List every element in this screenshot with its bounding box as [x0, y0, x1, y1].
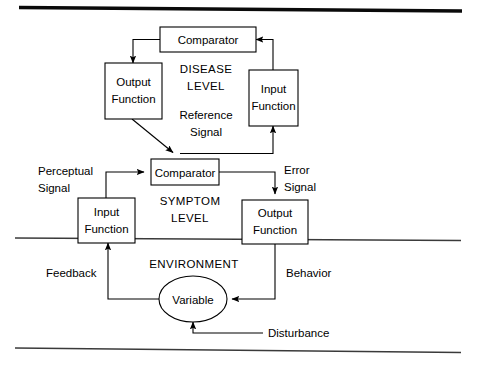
symptom-output-function-label-line1: Output: [258, 207, 293, 219]
reference-signal-line1: Reference: [179, 109, 232, 121]
top-horizontal-rule: [19, 8, 462, 12]
caption-perceptual-signal: Perceptual Signal: [38, 165, 93, 194]
edge-disease-input-function-to-comparator: [256, 40, 273, 71]
symptom-level-line2: LEVEL: [171, 212, 209, 224]
disease-level-line1: DISEASE: [180, 63, 233, 75]
caption-reference-signal: Reference Signal: [179, 109, 232, 138]
caption-disease-level: DISEASE LEVEL: [180, 63, 233, 92]
error-signal-line2: Signal: [284, 181, 316, 193]
environment-level-label: ENVIRONMENT: [149, 258, 238, 270]
perceptual-signal-line2: Signal: [38, 182, 70, 194]
edge-error-signal-to-symptom-output-function: [219, 172, 275, 194]
disturbance-label: Disturbance: [268, 327, 329, 339]
symptom-level-line1: SYMPTOM: [160, 195, 221, 207]
caption-error-signal: Error Signal: [284, 164, 316, 193]
node-symptom-input-function[interactable]: Input Function: [78, 198, 135, 243]
bottom-horizontal-rule: [15, 348, 461, 353]
disease-level-line2: LEVEL: [187, 80, 225, 92]
edge-disturbance-to-variable: [193, 322, 263, 333]
disease-output-function-label-line2: Function: [111, 93, 155, 105]
disease-output-function-label-line1: Output: [116, 76, 151, 88]
node-symptom-comparator[interactable]: Comparator: [151, 159, 219, 185]
symptom-input-function-label-line1: Input: [94, 206, 120, 218]
disease-comparator-label: Comparator: [178, 34, 239, 46]
symptom-output-function-label-line2: Function: [253, 224, 297, 236]
node-environment-variable[interactable]: Variable: [159, 276, 227, 322]
edge-reference-signal-to-symptom-comparator: [132, 119, 173, 153]
caption-symptom-level: SYMPTOM LEVEL: [160, 195, 221, 224]
behavior-label: Behavior: [286, 267, 332, 279]
node-disease-output-function[interactable]: Output Function: [105, 63, 162, 119]
node-symptom-output-function[interactable]: Output Function: [242, 200, 308, 244]
edge-feedback-to-symptom-input-function: [108, 243, 159, 299]
edge-disease-comparator-to-output-function: [133, 40, 160, 64]
environment-variable-label: Variable: [172, 294, 213, 306]
perceptual-signal-line1: Perceptual: [38, 165, 93, 177]
symptom-input-function-label-line2: Function: [84, 223, 128, 235]
node-disease-input-function[interactable]: Input Function: [249, 70, 298, 126]
symptom-comparator-label: Comparator: [155, 167, 216, 179]
node-disease-comparator[interactable]: Comparator: [160, 27, 256, 52]
disease-input-function-label-line2: Function: [251, 100, 295, 112]
error-signal-line1: Error: [284, 164, 310, 176]
disease-input-function-label-line1: Input: [261, 83, 287, 95]
reference-signal-line2: Signal: [190, 126, 222, 138]
feedback-label: Feedback: [46, 267, 97, 279]
edge-perceptual-signal-to-symptom-comparator: [106, 172, 144, 198]
control-hierarchy-diagram: Comparator Output Function Input Functio…: [0, 0, 481, 370]
